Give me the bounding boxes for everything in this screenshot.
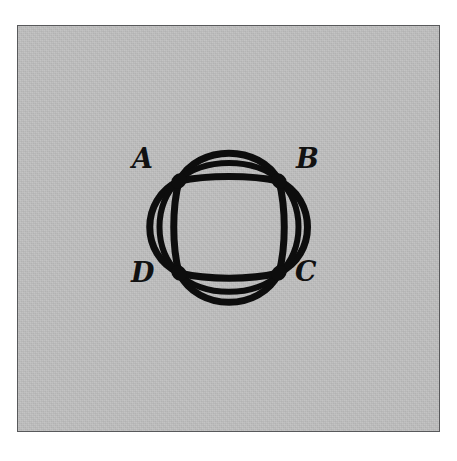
figure-root: A B C D [0,0,457,461]
drawing-plate: A B C D [17,25,440,432]
edge-dc-chord [179,273,279,278]
edge-bundle-ab [179,153,279,181]
edge-ad-chord [174,181,179,273]
vertex-label-c: C [295,258,317,285]
vertex-label-a: A [132,145,153,172]
edge-ab-chord [179,177,279,182]
edge-bundle-dc [179,273,279,302]
vertex-label-d: D [131,259,154,286]
vertex-nodes [168,170,290,284]
edge-bc-chord [279,181,284,273]
multigraph-drawing [18,26,440,432]
vertex-label-b: B [296,145,319,172]
